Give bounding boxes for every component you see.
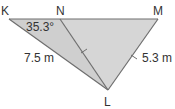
vertex-label-l: L xyxy=(104,95,111,109)
vertex-label-k: K xyxy=(1,4,9,18)
vertex-label-m: M xyxy=(153,4,163,18)
side-kl-label: 7.5 m xyxy=(24,51,54,65)
angle-k-label: 35.3° xyxy=(26,20,54,34)
vertex-label-n: N xyxy=(56,4,65,18)
triangle-diagram: K N M L 35.3° 7.5 m 5.3 m xyxy=(0,0,175,109)
side-ml-label: 5.3 m xyxy=(142,51,172,65)
